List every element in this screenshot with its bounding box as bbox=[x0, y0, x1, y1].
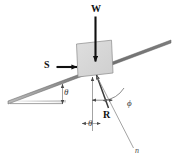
weight-label: W bbox=[91, 4, 101, 14]
resultant-label: R bbox=[103, 110, 110, 120]
resultant-vector bbox=[97, 75, 109, 108]
free-body-diagram-svg bbox=[0, 0, 178, 161]
incline-angle-label: θ bbox=[64, 88, 68, 97]
applied-force-label: S bbox=[44, 60, 50, 70]
friction-angle-label: ϕ bbox=[127, 99, 132, 108]
figure-container: W S θ R ϕ θ n bbox=[0, 0, 178, 161]
normal-direction-label: n bbox=[135, 147, 139, 155]
resultant-angle-label: θ bbox=[88, 119, 92, 128]
